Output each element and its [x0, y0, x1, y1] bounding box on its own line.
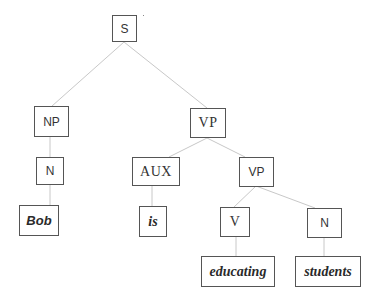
edge-s-np — [52, 42, 124, 106]
edge-vp-aux — [169, 138, 207, 157]
stray-dot — [143, 15, 144, 16]
leaf-is: is — [139, 206, 167, 237]
leaf-bob: Bob — [19, 205, 59, 236]
edge-vp2-n2 — [256, 186, 315, 208]
node-n-object: N — [307, 208, 342, 238]
leaf-educating: educating — [201, 256, 275, 287]
node-aux: AUX — [132, 157, 180, 186]
leaf-students: students — [295, 256, 361, 287]
syntax-tree-diagram: S NP VP N Bob AUX VP is V N educating st… — [0, 0, 378, 300]
node-v: V — [220, 207, 250, 237]
node-n-subject: N — [36, 157, 64, 185]
edge-s-vp — [124, 42, 207, 108]
node-np: NP — [34, 106, 69, 137]
node-vp: VP — [190, 108, 226, 138]
node-s: S — [112, 15, 137, 42]
tree-edges — [0, 0, 378, 300]
edge-vp-vp2 — [207, 138, 245, 157]
node-vp-inner: VP — [239, 157, 274, 187]
edge-vp2-v — [234, 186, 256, 207]
